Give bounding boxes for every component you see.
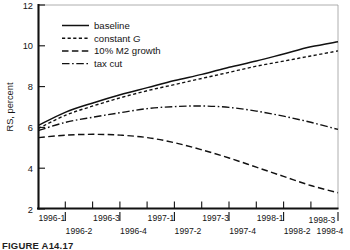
y-tick-label-12: 12	[23, 1, 33, 11]
y-tick-label-6: 6	[28, 123, 33, 133]
x-tick-labels-top: 1996-1 1996-3 1997-1 1997-3 1998-1 1998-…	[39, 213, 336, 225]
legend-entry-tax-cut[interactable]: tax cut	[62, 58, 123, 69]
x-tick-label-1998-3: 1998-3	[309, 215, 336, 225]
plot-frame	[38, 5, 338, 209]
figure-container: 12 10 8 6 4 2 RS, percent	[0, 0, 350, 250]
x-tick-label-1996-3: 1996-3	[93, 213, 120, 223]
y-tick-label-4: 4	[28, 164, 33, 174]
x-tick-label-1998-4: 1998-4	[317, 226, 344, 236]
figure-caption: FIGURE A14.17	[2, 240, 73, 250]
series-line-constant-g	[39, 51, 339, 129]
x-tick-label-1998-2: 1998-2	[284, 226, 311, 236]
legend-entry-m2-growth[interactable]: 10% M2 growth	[62, 45, 161, 56]
series-group	[39, 42, 339, 193]
legend-label-constant-g: constant G	[94, 33, 141, 44]
x-tick-label-1997-1: 1997-1	[148, 213, 175, 223]
series-line-m2-growth	[39, 134, 339, 192]
x-tick-label-1997-2: 1997-2	[175, 226, 202, 236]
series-line-baseline	[39, 42, 339, 126]
y-tick-label-2: 2	[28, 205, 33, 215]
legend-label-m2-growth: 10% M2 growth	[94, 45, 161, 56]
legend: baseline constant G 10% M2 growth tax cu…	[62, 20, 161, 69]
y-tick-label-10: 10	[23, 41, 33, 51]
legend-label-tax-cut: tax cut	[94, 58, 123, 69]
x-tick-label-1996-2: 1996-2	[66, 226, 93, 236]
legend-label-baseline: baseline	[94, 20, 130, 31]
x-tick-label-1998-1: 1998-1	[257, 213, 284, 223]
line-chart: 12 10 8 6 4 2 RS, percent	[0, 0, 350, 250]
y-axis-title: RS, percent	[5, 82, 15, 132]
x-tick-label-1996-1: 1996-1	[39, 213, 66, 223]
x-tick-labels-bottom: 1996-2 1996-4 1997-2 1997-4 1998-2 1998-…	[66, 226, 344, 236]
x-tick-label-1996-4: 1996-4	[120, 226, 147, 236]
x-tick-label-1997-3: 1997-3	[202, 213, 229, 223]
legend-entry-baseline[interactable]: baseline	[62, 20, 130, 31]
x-tick-label-1997-4: 1997-4	[229, 226, 256, 236]
y-axis-ticks: 12 10 8 6 4 2	[23, 1, 45, 215]
series-line-tax-cut	[39, 106, 339, 131]
y-tick-label-8: 8	[28, 82, 33, 92]
legend-entry-constant-g[interactable]: constant G	[62, 33, 141, 44]
